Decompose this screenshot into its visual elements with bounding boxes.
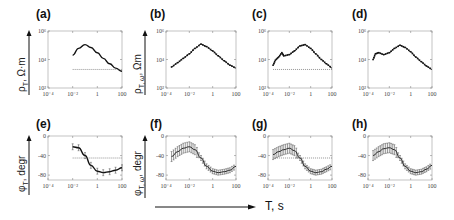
svg-text:100: 100	[328, 91, 337, 97]
svg-text:0: 0	[263, 133, 266, 139]
svg-text:10²: 10²	[38, 85, 46, 91]
chart-b: 10⁻⁴10⁻²110010²10⁴10⁶	[156, 28, 241, 97]
svg-text:10⁻⁴: 10⁻⁴	[262, 91, 273, 97]
svg-text:10⁻²: 10⁻²	[184, 183, 195, 189]
chart-d: 10⁻⁴10⁻²110010²10⁴10⁶	[358, 28, 437, 97]
chart-a: 10⁻⁴10⁻²110010²10⁴10⁶	[38, 28, 127, 97]
svg-text:10²: 10²	[258, 85, 266, 91]
svg-text:10⁻⁴: 10⁻⁴	[42, 183, 53, 189]
svg-text:-40: -40	[258, 153, 266, 159]
svg-text:10⁶: 10⁶	[258, 28, 266, 34]
svg-text:10²: 10²	[358, 85, 366, 91]
chart-g: 10⁻⁴10⁻²11000-40-80	[258, 133, 337, 189]
figure-canvas: 10⁻⁴10⁻²110010²10⁴10⁶10⁻⁴10⁻²110010²10⁴1…	[0, 0, 454, 220]
svg-text:1: 1	[309, 91, 312, 97]
svg-text:10⁻⁴: 10⁻⁴	[362, 91, 373, 97]
svg-text:10⁴: 10⁴	[156, 57, 164, 63]
svg-text:10⁶: 10⁶	[38, 28, 46, 34]
svg-text:100: 100	[428, 91, 437, 97]
svg-text:10⁻²: 10⁻²	[67, 91, 78, 97]
svg-text:1: 1	[211, 91, 214, 97]
svg-text:1: 1	[309, 183, 312, 189]
svg-text:-80: -80	[258, 172, 266, 178]
svg-text:10⁴: 10⁴	[358, 57, 366, 63]
chart-h: 10⁻⁴10⁻²11000-40-80	[358, 133, 437, 189]
svg-text:0: 0	[161, 133, 164, 139]
svg-text:10⁻²: 10⁻²	[284, 183, 295, 189]
chart-c: 10⁻⁴10⁻²110010²10⁴10⁶	[258, 28, 337, 97]
svg-text:100: 100	[118, 91, 127, 97]
svg-text:-80: -80	[156, 172, 164, 178]
chart-f: 10⁻⁴10⁻²11000-40-80	[156, 133, 241, 189]
svg-text:0: 0	[363, 133, 366, 139]
svg-text:100: 100	[328, 183, 337, 189]
svg-text:10⁻⁴: 10⁻⁴	[362, 183, 373, 189]
svg-text:100: 100	[232, 91, 241, 97]
svg-text:100: 100	[428, 183, 437, 189]
svg-text:10⁶: 10⁶	[156, 28, 164, 34]
svg-text:-80: -80	[38, 172, 46, 178]
svg-text:0: 0	[43, 133, 46, 139]
svg-text:10⁻⁴: 10⁻⁴	[160, 91, 171, 97]
svg-text:-40: -40	[156, 153, 164, 159]
chart-e: 10⁻⁴10⁻²11000-40-80	[38, 133, 127, 189]
svg-text:10⁻²: 10⁻²	[384, 91, 395, 97]
svg-text:-40: -40	[38, 153, 46, 159]
svg-text:100: 100	[118, 183, 127, 189]
svg-text:10⁻²: 10⁻²	[67, 183, 78, 189]
svg-text:10⁻⁴: 10⁻⁴	[160, 183, 171, 189]
svg-text:1: 1	[96, 183, 99, 189]
svg-text:-40: -40	[358, 153, 366, 159]
svg-text:1: 1	[409, 91, 412, 97]
svg-text:10²: 10²	[156, 85, 164, 91]
svg-text:10⁴: 10⁴	[258, 57, 266, 63]
svg-text:1: 1	[409, 183, 412, 189]
svg-text:10⁻²: 10⁻²	[184, 91, 195, 97]
svg-text:10⁶: 10⁶	[358, 28, 366, 34]
svg-text:100: 100	[232, 183, 241, 189]
svg-text:-80: -80	[358, 172, 366, 178]
svg-text:10⁻⁴: 10⁻⁴	[42, 91, 53, 97]
svg-text:1: 1	[96, 91, 99, 97]
svg-text:10⁻²: 10⁻²	[384, 183, 395, 189]
svg-text:1: 1	[211, 183, 214, 189]
svg-text:10⁻⁴: 10⁻⁴	[262, 183, 273, 189]
svg-text:10⁴: 10⁴	[38, 57, 46, 63]
svg-text:10⁻²: 10⁻²	[284, 91, 295, 97]
